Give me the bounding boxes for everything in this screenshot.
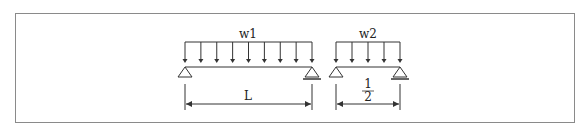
span-label-fraction: 1 2 — [362, 77, 374, 104]
distributed-load-2 — [334, 42, 403, 63]
load-label-w2: w2 — [359, 27, 377, 41]
beam-1: w1 L — [178, 27, 321, 110]
roller-support-icon — [391, 67, 409, 79]
pin-support-icon — [178, 67, 192, 77]
roller-support-icon — [303, 67, 321, 79]
pin-support-icon — [329, 67, 343, 77]
load-label-w1: w1 — [239, 27, 257, 41]
svg-text:1: 1 — [364, 77, 372, 91]
beam-diagram: w1 L w2 1 2 — [0, 0, 586, 131]
svg-text:2: 2 — [364, 90, 372, 104]
beam-2: w2 1 2 — [329, 27, 409, 110]
distributed-load-1 — [183, 42, 315, 63]
span-label-L: L — [244, 89, 252, 103]
